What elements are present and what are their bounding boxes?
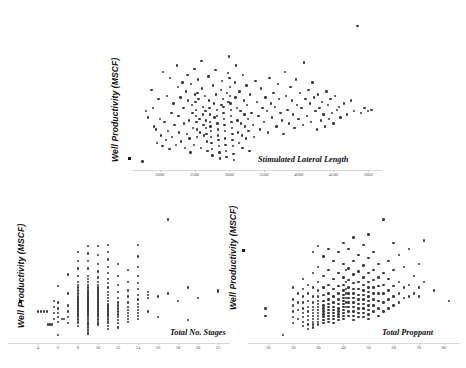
scatter-point (352, 282, 354, 284)
scatter-point (97, 254, 99, 256)
scatter-point (352, 260, 354, 262)
scatter-point (312, 272, 314, 274)
scatter-point (97, 276, 99, 278)
scatter-point (231, 139, 233, 141)
scatter-point (302, 321, 304, 323)
scatter-point (205, 119, 207, 121)
scatter-point (392, 285, 394, 287)
scatter-point (328, 118, 330, 120)
scatter-point (186, 133, 188, 135)
scatter-point (362, 284, 364, 286)
scatter-point (256, 101, 258, 103)
scatter-point (337, 303, 339, 305)
x-axis-tick-label: 20 (196, 345, 201, 350)
scatter-point (362, 244, 364, 246)
scatter-point (188, 137, 190, 139)
scatter-point (377, 276, 379, 278)
origin-marker (242, 249, 245, 252)
scatter-point (322, 300, 324, 302)
scatter-point (247, 118, 249, 120)
x-axis-tick-label: 2000 (155, 172, 164, 177)
scatter-point (243, 113, 245, 115)
scatter-point (209, 113, 211, 115)
scatter-point (178, 131, 180, 133)
scatter-point (342, 318, 344, 320)
scatter-point (77, 260, 79, 262)
scatter-point (53, 312, 55, 314)
scatter-point (362, 298, 364, 300)
scatter-point (357, 298, 359, 300)
scatter-point (357, 254, 359, 256)
scatter-point (387, 307, 389, 309)
scatter-point (195, 109, 197, 111)
scatter-point (292, 298, 294, 300)
scatter-point (362, 307, 364, 309)
scatter-point (230, 121, 232, 123)
scatter-point (317, 300, 319, 302)
scatter-point (57, 334, 59, 336)
scatter-point (152, 107, 154, 109)
scatter-point (127, 321, 129, 323)
scatter-point (357, 294, 359, 296)
scatter-point (382, 284, 384, 286)
x-axis-tick-label: 5000 (364, 172, 373, 177)
scatter-point (278, 98, 280, 100)
scatter-point (317, 303, 319, 305)
x-axis-ticks-bottom-left: 46810121416182022 (8, 345, 230, 355)
scatter-point (263, 121, 265, 123)
scatter-point (249, 93, 251, 95)
scatter-point (67, 316, 69, 318)
scatter-point (327, 312, 329, 314)
scatter-point (347, 292, 349, 294)
scatter-point (208, 107, 210, 109)
scatter-point (246, 104, 248, 106)
scatter-point (377, 285, 379, 287)
scatter-point (51, 323, 53, 325)
scatter-point (217, 291, 219, 293)
scatter-point (147, 294, 149, 296)
x-axis-tick-label: 4000 (294, 172, 303, 177)
scatter-point (327, 292, 329, 294)
scatter-point (307, 310, 309, 312)
scatter-point (352, 319, 354, 321)
scatter-point (57, 312, 59, 314)
scatter-point (97, 323, 99, 325)
scatter-point (313, 96, 315, 98)
scatter-point (77, 281, 79, 283)
scatter-point (317, 312, 319, 314)
scatter-point (147, 310, 149, 312)
scatter-point (367, 304, 369, 306)
x-axis-tick-label: 70 (417, 345, 422, 350)
scatter-point (137, 282, 139, 284)
scatter-point (217, 139, 219, 141)
scatter-point (367, 286, 369, 288)
scatter-point (157, 98, 159, 100)
scatter-point (211, 148, 213, 150)
scatter-point (157, 295, 159, 297)
scatter-point (202, 124, 204, 126)
scatter-point (127, 318, 129, 320)
scatter-point (87, 245, 89, 247)
scatter-point (252, 124, 254, 126)
scatter-point (127, 306, 129, 308)
scatter-point (327, 269, 329, 271)
scatter-point (274, 106, 276, 108)
scatter-point (382, 272, 384, 274)
scatter-point (317, 281, 319, 283)
scatter-point (232, 153, 234, 155)
scatter-point (337, 319, 339, 321)
scatter-point (253, 136, 255, 138)
scatter-point (107, 297, 109, 299)
scatter-point (352, 301, 354, 303)
panel-total-proppant (258, 190, 454, 338)
scatter-point (320, 119, 322, 121)
scatter-point (347, 297, 349, 299)
scatter-point (241, 147, 243, 149)
scatter-point (155, 128, 157, 130)
scatter-point (332, 260, 334, 262)
scatter-point (215, 93, 217, 95)
scatter-point (327, 306, 329, 308)
scatter-point (337, 292, 339, 294)
scatter-point (127, 309, 129, 311)
scatter-point (205, 127, 207, 129)
